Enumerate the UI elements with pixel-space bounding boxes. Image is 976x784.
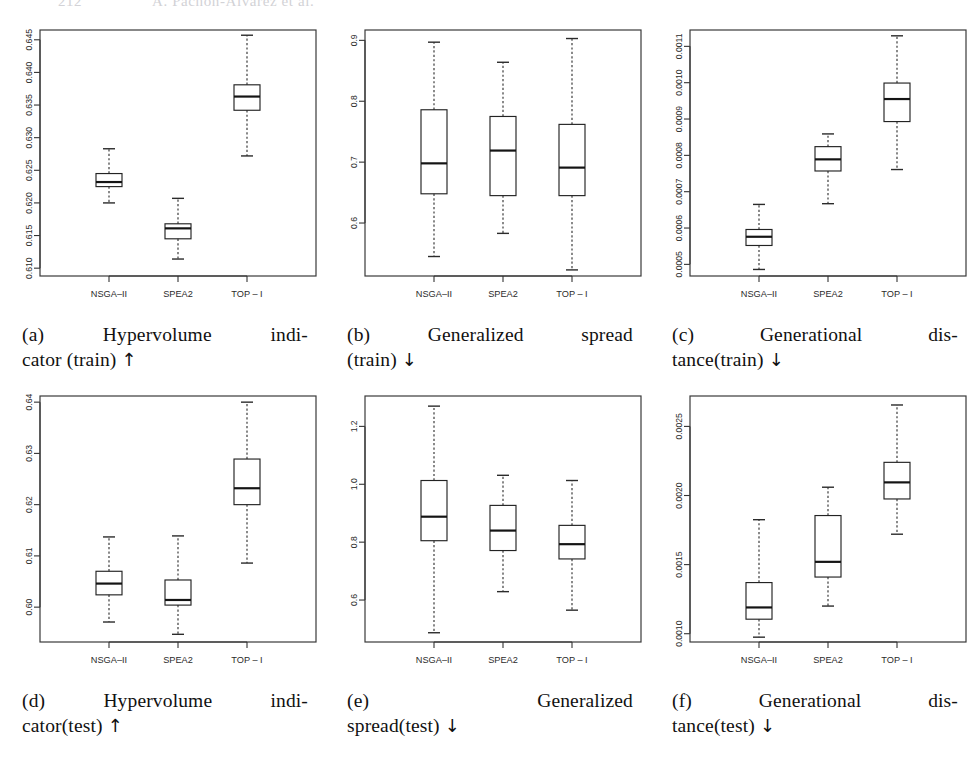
x-tick-label: SPEA2 [813,655,843,665]
boxplot-d-svg: 0.600.610.620.630.64NSGA–IISPEA2TOP – I [0,384,325,684]
boxplot-group [815,487,841,606]
caption-f-text1: Generational dis- [759,690,958,711]
plot-frame [690,30,966,276]
caption-c-arrow: ↓ [769,349,784,370]
plot-frame [365,396,641,642]
y-tick-label: 0.0007 [674,178,684,205]
boxplot-a: 0.6100.6150.6200.6250.6300.6350.6400.645… [0,18,325,318]
caption-e-text1: Generalized [537,690,633,711]
x-tick-label: TOP – I [881,655,912,665]
boxplot-group [234,402,260,563]
caption-b-label: (b) [347,324,370,345]
figure-row-bottom: 0.600.610.620.630.64NSGA–IISPEA2TOP – I … [0,384,976,738]
boxplot-group [234,35,260,156]
caption-d-text1: Hypervolume indi- [103,690,308,711]
x-tick-label: SPEA2 [163,289,193,299]
y-tick-label: 0.0020 [674,482,684,509]
y-tick-label: 0.62 [24,496,34,513]
boxplot-group [490,475,516,591]
y-tick-label: 0.615 [24,225,34,247]
figure-cell-d: 0.600.610.620.630.64NSGA–IISPEA2TOP – I … [0,384,325,738]
caption-a-arrow: ↑ [122,349,137,370]
boxplot-group [421,406,447,633]
y-tick-label: 0.630 [24,127,34,149]
x-tick-label: NSGA–II [416,289,452,299]
x-tick-label: NSGA–II [741,289,777,299]
boxplot-group [746,204,772,269]
y-tick-label: 0.0008 [674,142,684,169]
x-tick-label: SPEA2 [488,289,518,299]
boxplot-group [746,520,772,637]
boxplot-f: 0.00100.00150.00200.0025NSGA–IISPEA2TOP … [650,384,975,684]
figure-cell-b: 0.60.70.80.9NSGA–IISPEA2TOP – I (b) Gene… [325,18,650,372]
box-iqr [490,116,516,195]
caption-b-text2: (train) [347,349,397,370]
caption-c-text2: tance(train) [672,349,764,370]
y-tick-label: 1.2 [349,420,359,432]
caption-e-arrow: ↓ [445,715,460,736]
figure-row-top: 0.6100.6150.6200.6250.6300.6350.6400.645… [0,18,976,372]
caption-f-arrow: ↓ [760,715,775,736]
boxplot-group [421,42,447,256]
x-tick-label: NSGA–II [741,655,777,665]
page-number: 212 [58,0,82,10]
box-iqr [559,124,585,195]
y-tick-label: 0.620 [24,192,34,214]
caption-d-label: (d) [22,690,45,711]
y-tick-label: 0.0005 [674,251,684,278]
y-tick-label: 0.64 [24,394,34,411]
figure-caption-f: (f) Generational dis- tance(test) ↓ [672,688,958,738]
y-tick-label: 0.635 [24,94,34,116]
x-tick-label: SPEA2 [813,289,843,299]
boxplot-group [165,536,191,634]
box-iqr [165,580,191,605]
box-iqr [746,583,772,620]
boxplot-group [490,62,516,233]
box-iqr [490,505,516,550]
boxplot-b: 0.60.70.80.9NSGA–IISPEA2TOP – I [325,18,650,318]
caption-b-line2: (train) ↓ [347,347,633,372]
box-iqr [815,516,841,578]
figure-cell-c: 0.00050.00060.00070.00080.00090.00100.00… [650,18,975,372]
figure-grid: 0.6100.6150.6200.6250.6300.6350.6400.645… [0,18,976,738]
boxplot-b-svg: 0.60.70.80.9NSGA–IISPEA2TOP – I [325,18,650,318]
boxplot-group [884,405,910,534]
x-tick-label: SPEA2 [488,655,518,665]
x-tick-label: TOP – I [556,655,587,665]
y-tick-label: 0.60 [24,599,34,616]
box-iqr [559,525,585,559]
box-iqr [421,481,447,541]
boxplot-group [96,537,122,622]
x-tick-label: NSGA–II [416,655,452,665]
boxplot-group [559,39,585,270]
y-tick-label: 0.0010 [674,69,684,96]
caption-f-line1: (f) Generational dis- [672,688,958,713]
figure-caption-c: (c) Generational dis- tance(train) ↓ [672,322,958,372]
caption-b-text1: Generalized spread [428,324,633,345]
box-iqr [96,174,122,187]
caption-b-arrow: ↓ [402,349,417,370]
boxplot-c: 0.00050.00060.00070.00080.00090.00100.00… [650,18,975,318]
caption-d-line2: cator(test) ↑ [22,713,308,738]
y-tick-label: 0.610 [24,257,34,279]
x-tick-label: SPEA2 [163,655,193,665]
caption-e-label: (e) [347,690,369,711]
caption-b-line1: (b) Generalized spread [347,322,633,347]
boxplot-e-svg: 0.60.81.01.2NSGA–IISPEA2TOP – I [325,384,650,684]
caption-a-line2: cator (train) ↑ [22,347,308,372]
boxplot-a-svg: 0.6100.6150.6200.6250.6300.6350.6400.645… [0,18,325,318]
figure-caption-e: (e) Generalized spread(test) ↓ [347,688,633,738]
figure-caption-a: (a) Hypervolume indi- cator (train) ↑ [22,322,308,372]
x-tick-label: NSGA–II [91,655,127,665]
box-iqr [884,462,910,499]
box-iqr [884,83,910,122]
y-tick-label: 0.63 [24,445,34,462]
caption-a-line1: (a) Hypervolume indi- [22,322,308,347]
y-tick-label: 0.6 [349,217,359,229]
x-tick-label: TOP – I [556,289,587,299]
x-tick-label: TOP – I [231,289,262,299]
y-tick-label: 0.8 [349,95,359,107]
y-tick-label: 0.9 [349,34,359,46]
caption-d-text2: cator(test) [22,715,103,736]
figure-caption-d: (d) Hypervolume indi- cator(test) ↑ [22,688,308,738]
